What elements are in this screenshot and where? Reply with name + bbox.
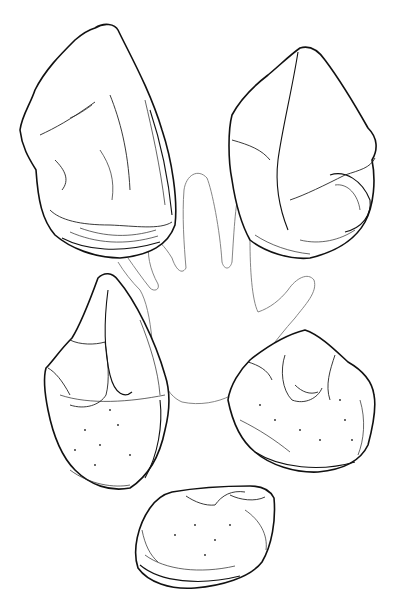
- stone-top-right: [229, 47, 376, 258]
- stone-bottom: [136, 486, 275, 588]
- stone-middle-left: [45, 274, 169, 489]
- stone-tools-illustration: [0, 0, 397, 603]
- illustration-canvas: [0, 0, 397, 603]
- stone-top-left: [20, 24, 176, 258]
- stone-middle-right: [228, 330, 375, 472]
